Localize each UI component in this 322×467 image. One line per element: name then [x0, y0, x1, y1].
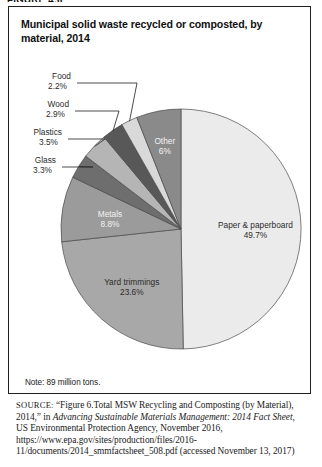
- pie-slice-label: Yard trimmings: [104, 277, 159, 287]
- figure-box: Municipal solid waste recycled or compos…: [8, 6, 311, 394]
- pie-slice-value: 3.5%: [39, 137, 59, 147]
- pie-slice-label: Wood: [47, 99, 69, 109]
- pie-slice-value: 8.8%: [101, 219, 121, 229]
- pie-slice-value: 23.6%: [120, 287, 144, 297]
- pie-slice-label: Other: [154, 136, 175, 146]
- pie-slice-label: Metals: [98, 209, 122, 219]
- pie-leader-line: [75, 111, 119, 131]
- pie-slice-label: Food: [52, 71, 71, 81]
- figure-number-label: FIGURE 4.6: [7, 0, 63, 2]
- chart-note: Note: 89 million tons.: [25, 378, 100, 387]
- pie-slice-value: 3.3%: [33, 165, 53, 175]
- pie-slice-label: Glass: [35, 155, 56, 165]
- pie-slice-label: Paper & paperboard: [218, 220, 293, 230]
- source-label: SOURCE:: [16, 400, 54, 410]
- pie-slice-value: 2.9%: [46, 109, 66, 119]
- pie-slice-value: 49.7%: [244, 230, 268, 240]
- pie-slice-value: 6%: [159, 146, 172, 156]
- source-citation: SOURCE: “Figure 6.Total MSW Recycling an…: [16, 400, 308, 458]
- pie-chart: Paper & paperboard49.7%Yard trimmings23.…: [9, 7, 312, 395]
- pie-leader-line: [77, 83, 137, 121]
- pie-slice-value: 2.2%: [48, 81, 68, 91]
- source-title-italic: Advancing Sustainable Materials Manageme…: [53, 412, 293, 422]
- pie-slice-label: Plastics: [33, 127, 62, 137]
